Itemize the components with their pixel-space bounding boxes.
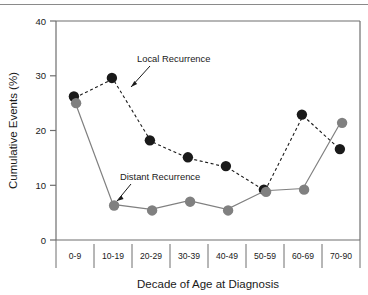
annotation-distant-recurrence: Distant Recurrence [117, 171, 200, 201]
x-category-label-7: 70-90 [330, 251, 352, 261]
cumulative-events-line-chart: 40 30 20 10 0 Cumulative Events (%) 0-9 … [0, 0, 368, 295]
y-tick-label-30: 30 [35, 70, 46, 81]
data-point-marker [261, 187, 271, 197]
x-category-label-3: 30-39 [178, 251, 200, 261]
y-axis-ticks [50, 21, 56, 240]
y-tick-label-20: 20 [35, 125, 46, 136]
x-category-label-4: 40-49 [216, 251, 238, 261]
series-line [75, 79, 341, 191]
data-point-marker [185, 196, 195, 206]
x-category-label-0: 0-9 [69, 251, 82, 261]
x-category-label-1: 10-19 [102, 251, 124, 261]
data-point-marker [297, 109, 307, 119]
series-local-recurrence [69, 73, 345, 195]
chart-figure: 40 30 20 10 0 Cumulative Events (%) 0-9 … [0, 0, 368, 295]
x-category-label-6: 60-69 [292, 251, 314, 261]
x-axis-title: Decade of Age at Diagnosis [137, 278, 279, 290]
y-axis-tick-labels: 40 30 20 10 0 [35, 16, 46, 246]
data-point-marker [299, 184, 309, 194]
x-category-label-5: 50-59 [254, 251, 276, 261]
data-point-marker [71, 98, 81, 108]
data-series-layer [69, 73, 348, 216]
data-point-marker [107, 73, 117, 83]
data-point-marker [183, 152, 193, 162]
y-tick-label-40: 40 [35, 16, 46, 27]
data-point-marker [109, 200, 119, 210]
data-point-marker [223, 205, 233, 215]
y-tick-label-0: 0 [41, 235, 46, 246]
data-point-marker [337, 118, 347, 128]
y-tick-label-10: 10 [35, 180, 46, 191]
data-point-marker [335, 144, 345, 154]
data-point-marker [145, 135, 155, 145]
annotation-label-local-recurrence: Local Recurrence [137, 53, 210, 64]
data-point-marker [147, 205, 157, 215]
annotation-label-distant-recurrence: Distant Recurrence [120, 171, 200, 182]
annotation-local-recurrence: Local Recurrence [131, 53, 210, 87]
x-axis-category-labels: 0-9 10-19 20-29 30-39 40-49 50-59 60-69 … [69, 251, 352, 261]
y-axis-title: Cumulative Events (%) [7, 72, 19, 189]
x-category-label-2: 20-29 [140, 251, 162, 261]
data-point-marker [221, 161, 231, 171]
